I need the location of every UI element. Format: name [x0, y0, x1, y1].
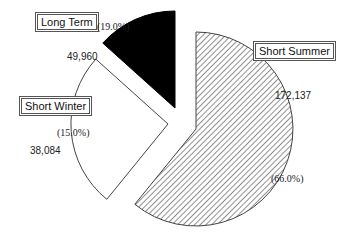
pct-short-winter: (15.0%) [57, 127, 90, 138]
pie-chart [0, 0, 348, 233]
label-long-term: Long Term [35, 12, 99, 32]
pct-short-summer: (66.0%) [271, 173, 304, 184]
label-short-winter: Short Winter [19, 96, 92, 116]
pct-long-term: (19.0%) [97, 21, 130, 32]
value-short-winter: 38,084 [30, 145, 61, 156]
value-long-term: 49,960 [67, 51, 98, 62]
value-short-summer: 172,137 [275, 90, 311, 101]
label-short-summer: Short Summer [253, 41, 336, 61]
